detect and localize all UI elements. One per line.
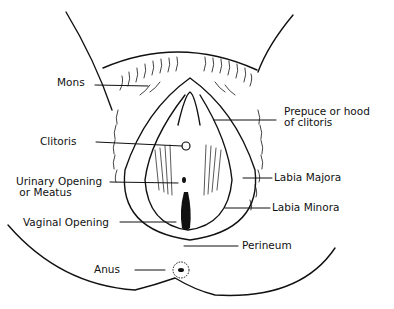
vaginal-opening <box>181 192 191 230</box>
label-labia-minora: Labia Minora <box>272 202 339 213</box>
left-thigh-outline <box>66 12 112 110</box>
prepuce-outline <box>178 92 200 125</box>
clitoris-glans <box>182 142 190 150</box>
anatomy-diagram <box>0 0 394 309</box>
right-thigh-outline <box>258 15 293 72</box>
label-labia-majora: Labia Majora <box>274 172 341 183</box>
label-perineum: Perineum <box>242 240 292 251</box>
label-clitoris: Clitoris <box>40 136 76 147</box>
anus-mark <box>173 262 189 278</box>
mons-arc <box>103 52 257 70</box>
fold-hatching <box>155 145 221 195</box>
label-vaginal-opening: Vaginal Opening <box>23 217 109 228</box>
urinary-opening <box>182 177 186 183</box>
label-mons: Mons <box>57 77 85 88</box>
label-anus: Anus <box>94 264 120 275</box>
label-urinary-opening: Urinary Opening or Meatus <box>16 176 102 198</box>
label-prepuce: Prepuce or hood of clitoris <box>284 106 370 128</box>
